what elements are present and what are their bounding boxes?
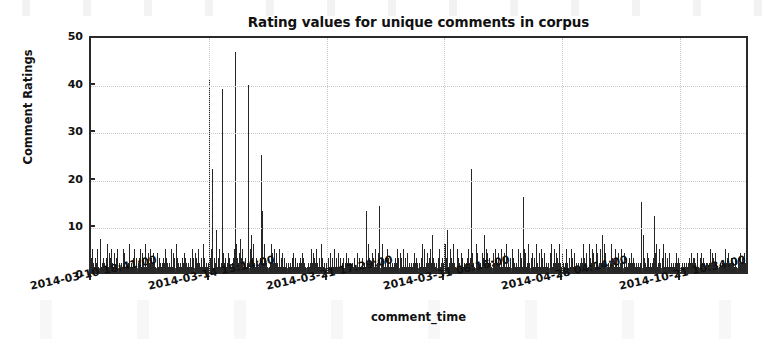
y-tick-label: 50 [57, 30, 83, 43]
x-axis-label: comment_time [89, 310, 748, 324]
y-tick-label: 10 [57, 220, 83, 233]
chart-title: Rating values for unique comments in cor… [89, 14, 748, 30]
y-axis-label: Comment Ratings [21, 37, 35, 177]
plot-area [89, 36, 748, 274]
chart-figure: Rating values for unique comments in cor… [0, 0, 778, 339]
y-tick-mark [89, 225, 95, 227]
y-tick-label: 30 [57, 125, 83, 138]
bar-series [91, 38, 746, 272]
y-axis-ticks: 01020304050 [55, 36, 83, 274]
y-tick-mark [89, 130, 95, 132]
y-tick-label: 20 [57, 172, 83, 185]
y-tick-mark [89, 83, 95, 85]
y-tick-mark [89, 178, 95, 180]
y-tick-label: 40 [57, 77, 83, 90]
